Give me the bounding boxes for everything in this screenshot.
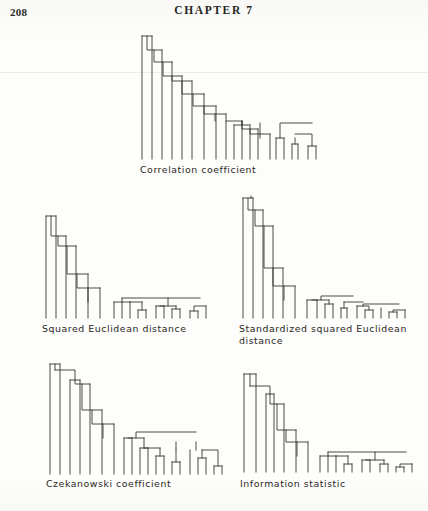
- dendrogram-standardized-squared-euclidean-distance: Standardized squared Euclidean distance: [239, 196, 417, 322]
- dendrogram-squared-euclidean-label: Squared Euclidean distance: [42, 323, 187, 335]
- dendrogram-czekanowski-plot: [44, 362, 222, 478]
- dendrogram-correlation-label: Correlation coefficient: [140, 164, 256, 176]
- dendrogram-information-statistic: Information statistic: [240, 368, 418, 476]
- dendrogram-squared-euclidean-distance: Squared Euclidean distance: [42, 210, 217, 322]
- dendrogram-information-statistic-label: Information statistic: [240, 478, 346, 490]
- dendrogram-information-statistic-plot: [240, 368, 418, 476]
- dendrogram-czekanowski-label: Czekanowski coefficient: [46, 478, 171, 490]
- dendrogram-squared-euclidean-plot: [42, 210, 217, 322]
- dendrogram-standardized-squared-euclidean-plot: [239, 196, 417, 322]
- dendrogram-czekanowski-coefficient: Czekanowski coefficient: [44, 362, 222, 478]
- dendrogram-correlation-plot: [136, 28, 326, 162]
- dendrogram-standardized-squared-euclidean-label: Standardized squared Euclidean distance: [239, 323, 407, 346]
- chapter-title: CHAPTER 7: [0, 4, 428, 16]
- dendrogram-correlation-coefficient: Correlation coefficient: [136, 28, 326, 162]
- page-header: 208 CHAPTER 7: [0, 0, 428, 26]
